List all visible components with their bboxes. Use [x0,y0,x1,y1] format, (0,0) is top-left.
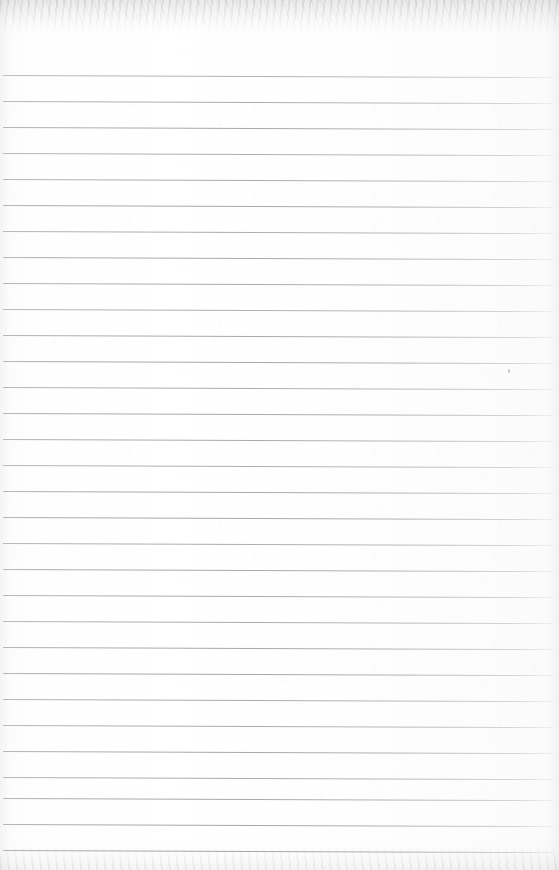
ruled-line [3,824,553,827]
ruled-line [3,595,553,598]
ruled-line [3,335,553,338]
ruled-line [3,725,553,728]
ruled-line [3,179,553,182]
ruled-line [3,798,553,801]
ruled-line [3,777,553,780]
ruled-line [3,569,553,572]
ruled-line [3,647,553,650]
ruled-line [3,517,553,520]
ruled-line [3,309,553,312]
ruled-line [3,387,553,390]
ruled-line [3,491,553,494]
ruled-line [3,257,553,260]
paper-speck [508,369,510,373]
ruled-line [3,543,553,546]
ruled-line [3,751,553,754]
ruled-line [3,283,553,286]
ruled-line [3,413,553,416]
ruled-line [3,75,553,78]
ruled-line [3,231,553,234]
ruled-line [3,101,553,104]
scanned-page [0,0,559,870]
ruled-line [3,673,553,676]
ruled-line [3,205,553,208]
ruled-line [3,621,553,624]
ruled-line [3,439,553,442]
ruled-line [3,850,553,853]
ruled-line [3,153,553,156]
ruled-line [3,127,553,130]
ruled-lines [0,0,559,870]
ruled-line [3,361,553,364]
ruled-line [3,465,553,468]
ruled-line [3,699,553,702]
